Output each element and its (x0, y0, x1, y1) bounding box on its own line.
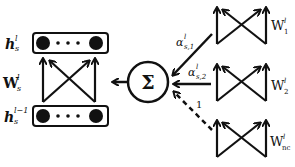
right-module-nc: W l nc (217, 121, 291, 157)
top-layer-label: h (5, 36, 15, 52)
left-weight-sup: l (17, 73, 20, 82)
w1-sup: l (284, 17, 286, 25)
sigma-symbol: Σ (141, 71, 154, 93)
w1-sub: 1 (284, 28, 288, 36)
bottom-layer-sup: l−1 (14, 106, 28, 115)
wnc-sup: l (283, 133, 285, 141)
w2-sup: l (284, 77, 286, 85)
left-weight-sub: s (17, 84, 21, 93)
edge-alpha-1-sup: l (184, 33, 186, 41)
w2-label: W (271, 78, 285, 93)
edge-alpha-1-label: α (176, 36, 184, 49)
bottom-layer-sub: s (14, 117, 18, 126)
sum-node: Σ (128, 62, 168, 102)
edge-alpha-1-sub: s,1 (184, 43, 194, 51)
top-layer-sub: s (15, 44, 19, 53)
right-module-2: W l 2 (217, 65, 288, 101)
edge-alpha-2-sup: l (196, 63, 198, 71)
wnc-sub: nc (282, 144, 291, 152)
bottom-layer-label: h (4, 109, 14, 125)
left-weight-arrows (43, 59, 95, 102)
right-module-1: W l 1 (217, 8, 288, 44)
top-layer-box (33, 33, 108, 53)
edge-one-dashed (174, 92, 212, 130)
edge-one-label: 1 (196, 99, 202, 110)
diagram-canvas: h l s W l s h l−1 s Σ α l s,1 α l s,2 1 (0, 0, 295, 167)
w1-label: W (271, 18, 285, 33)
top-layer-sup: l (15, 34, 18, 43)
edge-alpha-2-label: α (188, 66, 196, 79)
edge-alpha-2-sub: s,2 (196, 73, 207, 81)
w2-sub: 2 (284, 88, 288, 96)
bottom-layer-box (33, 106, 108, 126)
left-module: h l s W l s h l−1 s (2, 33, 108, 126)
